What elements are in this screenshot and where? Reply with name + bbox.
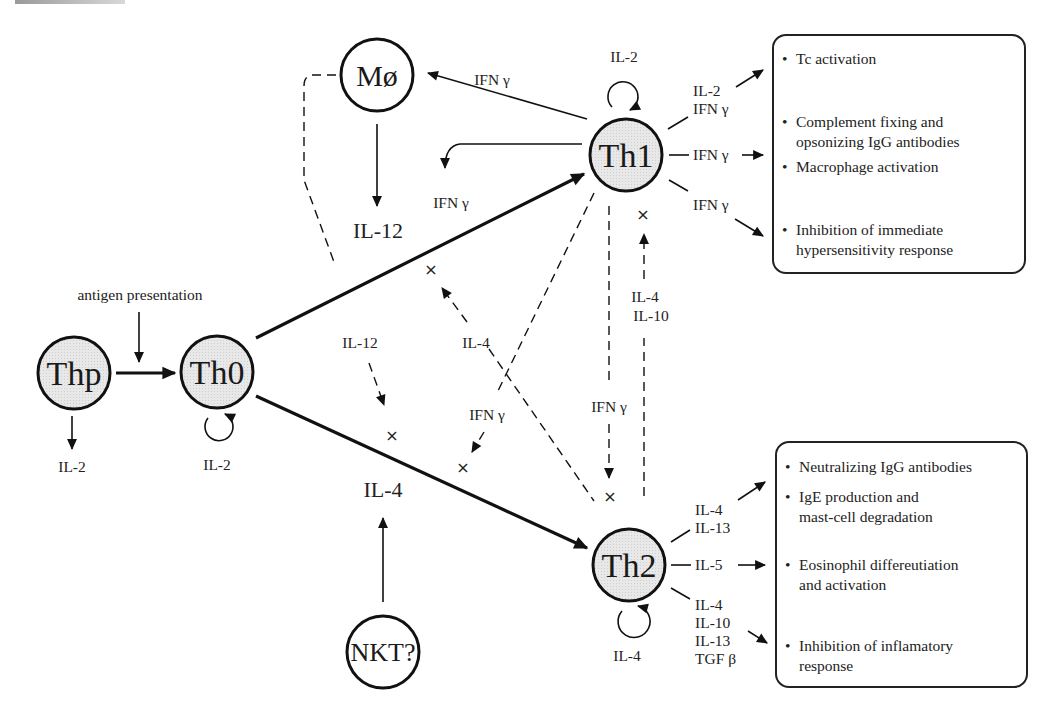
- th0-to-th2-arrow: [256, 396, 587, 548]
- th0-il2-label: IL-2: [203, 456, 231, 473]
- il4-inhibit-label: IL-4: [462, 334, 490, 351]
- il4-product-label: IL-4: [363, 477, 402, 502]
- th1-cytokine-labels: IL-2 IFN γ IFN γ IFN γ: [693, 82, 729, 213]
- node-macrophage: Mø: [341, 39, 413, 111]
- th1-to-macrophage-label: IFN γ: [474, 71, 510, 88]
- node-nkt-label: NKT?: [351, 638, 416, 667]
- ifn-inhibit-label: IFN γ: [469, 406, 505, 423]
- ifn-th1-to-th2-label: IFN γ: [591, 398, 627, 415]
- node-nkt: NKT?: [347, 616, 419, 688]
- th1-ifn-dashed-line: [496, 193, 594, 395]
- th2-output-3-line1: IL-4: [695, 596, 723, 613]
- th2-il4-dashed-line: [489, 349, 594, 501]
- th1-effect-item: •Complement fixing and opsonizing IgG an…: [796, 112, 1018, 152]
- inhibition-mark: ×: [456, 458, 469, 477]
- th2-il4-label: IL-4: [613, 647, 641, 664]
- inhibition-mark: ×: [636, 205, 649, 224]
- th1-effect-item: •Macrophage activation: [796, 157, 1018, 177]
- antigen-presentation-label: antigen presentation: [77, 286, 202, 303]
- node-th2-label: Th2: [602, 547, 657, 584]
- node-macrophage-label: Mø: [356, 59, 398, 92]
- th2-cytokine-labels: IL-4 IL-13 IL-5 IL-4 IL-10 IL-13 TGF β: [695, 501, 736, 667]
- il4-il10-label-line1: IL-4: [631, 288, 659, 305]
- th2-effect-item: •Inhibition of inflamatory response: [799, 636, 1020, 676]
- th0-autocrine-loop-icon: [205, 414, 233, 441]
- il4-il10-label-line2: IL-10: [633, 307, 669, 324]
- th1-output-1-line2: IFN γ: [693, 100, 729, 117]
- th1-ifn-curved-arrow: [445, 144, 582, 168]
- th1-effects-box: •Tc activation •Complement fixing and op…: [772, 34, 1026, 274]
- th2-effect-item: •Eosinophil differeutiation and activati…: [799, 555, 1020, 595]
- node-th2: Th2: [593, 529, 665, 601]
- th2-output-1-line2: IL-13: [695, 519, 731, 536]
- th1-ifn-self-label: IFN γ: [433, 194, 469, 211]
- node-th0-label: Th0: [190, 354, 245, 391]
- th1-il2-label: IL-2: [610, 48, 638, 65]
- macrophage-dashed-line: [304, 75, 336, 262]
- th2-effects-box: •Neutralizing IgG antibodies •IgE produc…: [775, 441, 1028, 688]
- inhibition-mark: ×: [385, 426, 398, 445]
- inhibition-marks: × × × × ×: [385, 205, 649, 506]
- th2-output-1-line1: IL-4: [695, 501, 723, 518]
- th2-output-3-line4: TGF β: [695, 650, 736, 667]
- th2-autocrine-loop-icon: [618, 606, 650, 638]
- node-thp: Thp: [38, 337, 110, 409]
- th1-output-2: IFN γ: [693, 146, 729, 163]
- il12-product-label: IL-12: [353, 218, 403, 243]
- th0-to-th1-arrow: [256, 174, 584, 338]
- node-thp-label: Thp: [47, 355, 102, 392]
- inhibition-mark: ×: [603, 487, 616, 506]
- th2-output-3-line2: IL-10: [695, 614, 731, 631]
- ifn-inhibit-dashed-arrow: [472, 432, 484, 452]
- th2-output-2: IL-5: [695, 556, 723, 573]
- inhibition-mark: ×: [424, 260, 437, 279]
- th1-effect-item: •Tc activation: [796, 49, 1018, 69]
- il4-inhibit-dashed-arrow: [442, 288, 467, 322]
- thp-il2-label: IL-2: [58, 458, 86, 475]
- th1-output-3: IFN γ: [693, 196, 729, 213]
- th2-effect-item: •IgE production and mast-cell degradatio…: [799, 487, 1020, 527]
- node-th0: Th0: [181, 336, 253, 408]
- il12-inhibit-dashed-arrow: [369, 363, 384, 405]
- th2-output-3-line3: IL-13: [695, 632, 731, 649]
- il12-inhibit-label: IL-12: [342, 334, 377, 351]
- node-th1-label: Th1: [599, 137, 654, 174]
- node-th1: Th1: [590, 119, 662, 191]
- th1-autocrine-loop-icon: [608, 82, 638, 110]
- th1-effect-item: •Inhibition of immediate hypersensitivit…: [796, 220, 1018, 260]
- th2-effect-item: •Neutralizing IgG antibodies: [799, 457, 1020, 477]
- th1-output-1-line1: IL-2: [693, 82, 721, 99]
